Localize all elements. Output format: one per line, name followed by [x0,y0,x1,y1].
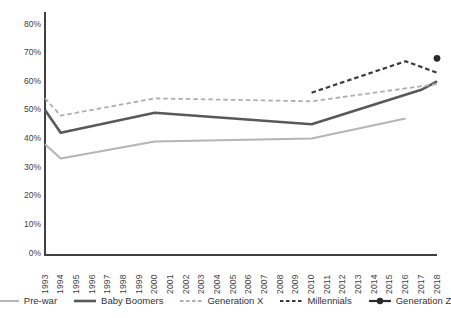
x-tick-label-1997: 1997 [102,260,112,294]
legend-item-generation-x: Generation X [180,295,263,306]
y-tick-label-10: 10% [7,220,41,229]
y-tick-label-50: 50% [7,105,41,114]
x-tick-label-2012: 2012 [337,260,347,294]
x-tick-label-1996: 1996 [87,260,97,294]
series-line-millennials [312,61,437,92]
x-tick-label-1999: 1999 [134,260,144,294]
y-tick-label-40: 40% [7,134,41,143]
x-tick-label-1998: 1998 [118,260,128,294]
legend-item-millennials: Millennials [280,295,351,306]
x-tick-label-2004: 2004 [212,260,222,294]
legend-item-pre-war: Pre-war [0,295,57,306]
y-tick-label-80: 80% [7,20,41,29]
legend-label-generation-z: Generation Z [396,295,451,306]
x-tick-label-2016: 2016 [400,260,410,294]
legend-line-icon-millennials [280,296,302,306]
x-tick-label-2005: 2005 [228,260,238,294]
legend: Pre-warBaby BoomersGeneration XMillennia… [0,295,448,306]
x-tick-label-2008: 2008 [275,260,285,294]
x-tick-label-2013: 2013 [353,260,363,294]
legend-label-generation-x: Generation X [207,295,263,306]
legend-label-baby-boomers: Baby Boomers [101,295,163,306]
y-tick-label-60: 60% [7,77,41,86]
y-tick-label-70: 70% [7,48,41,57]
series-line-generation-x [45,84,437,116]
x-tick-label-2014: 2014 [369,260,379,294]
x-tick-label-2010: 2010 [306,260,316,294]
x-tick-label-2018: 2018 [432,260,442,294]
legend-line-icon-generation-z [369,296,391,306]
x-tick-label-1995: 1995 [71,260,81,294]
x-tick-label-2003: 2003 [196,260,206,294]
legend-line-icon-baby-boomers [74,296,96,306]
x-tick-label-2002: 2002 [181,260,191,294]
legend-item-baby-boomers: Baby Boomers [74,295,163,306]
x-tick-label-2000: 2000 [149,260,159,294]
x-tick-label-2006: 2006 [243,260,253,294]
x-tick-label-2017: 2017 [416,260,426,294]
x-tick-label-2007: 2007 [259,260,269,294]
x-tick-label-2015: 2015 [384,260,394,294]
x-tick-label-1994: 1994 [55,260,65,294]
y-tick-label-0: 0% [7,249,41,258]
x-tick-label-2011: 2011 [322,260,332,294]
series-point-generation-z [434,55,441,62]
legend-item-generation-z: Generation Z [369,295,451,306]
legend-label-millennials: Millennials [307,295,351,306]
y-tick-label-30: 30% [7,163,41,172]
x-tick-label-1993: 1993 [40,260,50,294]
legend-label-pre-war: Pre-war [24,295,57,306]
legend-line-icon-generation-x [180,296,202,306]
legend-line-icon-pre-war [0,296,19,306]
x-tick-label-2001: 2001 [165,260,175,294]
y-tick-label-20: 20% [7,191,41,200]
x-tick-label-2009: 2009 [290,260,300,294]
